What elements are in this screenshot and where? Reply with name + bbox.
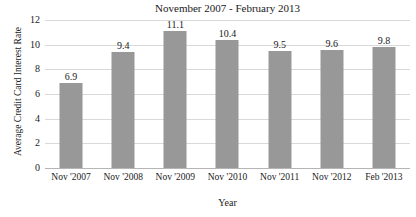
bar-value-label: 9.8 (358, 35, 410, 46)
bar-group: 9.8 (358, 20, 410, 168)
bar[interactable] (112, 52, 135, 168)
bar-value-label: 6.9 (45, 71, 97, 82)
bar-group: 6.9 (45, 20, 97, 168)
bar-value-label: 11.1 (149, 19, 201, 30)
x-axis-tick-label: Nov '2007 (45, 171, 97, 184)
x-axis-line: 0 (45, 168, 410, 169)
bar-value-label: 9.5 (254, 39, 306, 50)
bar[interactable] (320, 50, 343, 168)
bar-value-label: 9.4 (97, 40, 149, 51)
bar[interactable] (60, 83, 83, 168)
bar-group: 10.4 (201, 20, 253, 168)
y-axis-tick-label: 4 (35, 114, 40, 124)
bar-value-label: 10.4 (201, 28, 253, 39)
x-axis-tick-label: Nov '2012 (306, 171, 358, 184)
x-axis-tick-label: Nov '2011 (254, 171, 306, 184)
x-axis-tick-labels: Nov '2007Nov '2008Nov '2009Nov '2010Nov … (45, 171, 410, 187)
bar-group: 9.4 (97, 20, 149, 168)
bar-chart-screenshot: November 2007 - February 2013 Average Cr… (0, 0, 416, 217)
x-axis-title: Year (45, 196, 410, 209)
bar-group: 9.5 (254, 20, 306, 168)
bar-group: 11.1 (149, 20, 201, 168)
x-axis-tick-label: Feb '2013 (358, 171, 410, 184)
chart-title: November 2007 - February 2013 (45, 1, 410, 15)
x-axis-tick-label: Nov '2009 (149, 171, 201, 184)
x-axis-tick-label: Nov '2008 (97, 171, 149, 184)
bars: 6.99.411.110.49.59.69.8 (45, 20, 410, 168)
bar[interactable] (268, 51, 291, 168)
bar[interactable] (372, 47, 395, 168)
bar[interactable] (216, 40, 239, 168)
y-axis-tick-label: 0 (35, 163, 40, 173)
bar-group: 9.6 (306, 20, 358, 168)
y-axis-tick-label: 8 (35, 64, 40, 74)
y-axis-tick-label: 6 (35, 89, 40, 99)
bar-value-label: 9.6 (306, 38, 358, 49)
plot-area: 024681012 6.99.411.110.49.59.69.8 (45, 20, 410, 168)
bar[interactable] (164, 31, 187, 168)
y-axis-tick-label: 10 (30, 40, 40, 50)
y-axis-title: Average Credit Card Interest Rate (13, 12, 24, 172)
x-axis-tick-label: Nov '2010 (201, 171, 253, 184)
y-axis-tick-label: 2 (35, 138, 40, 148)
y-axis-tick-label: 12 (30, 15, 40, 25)
